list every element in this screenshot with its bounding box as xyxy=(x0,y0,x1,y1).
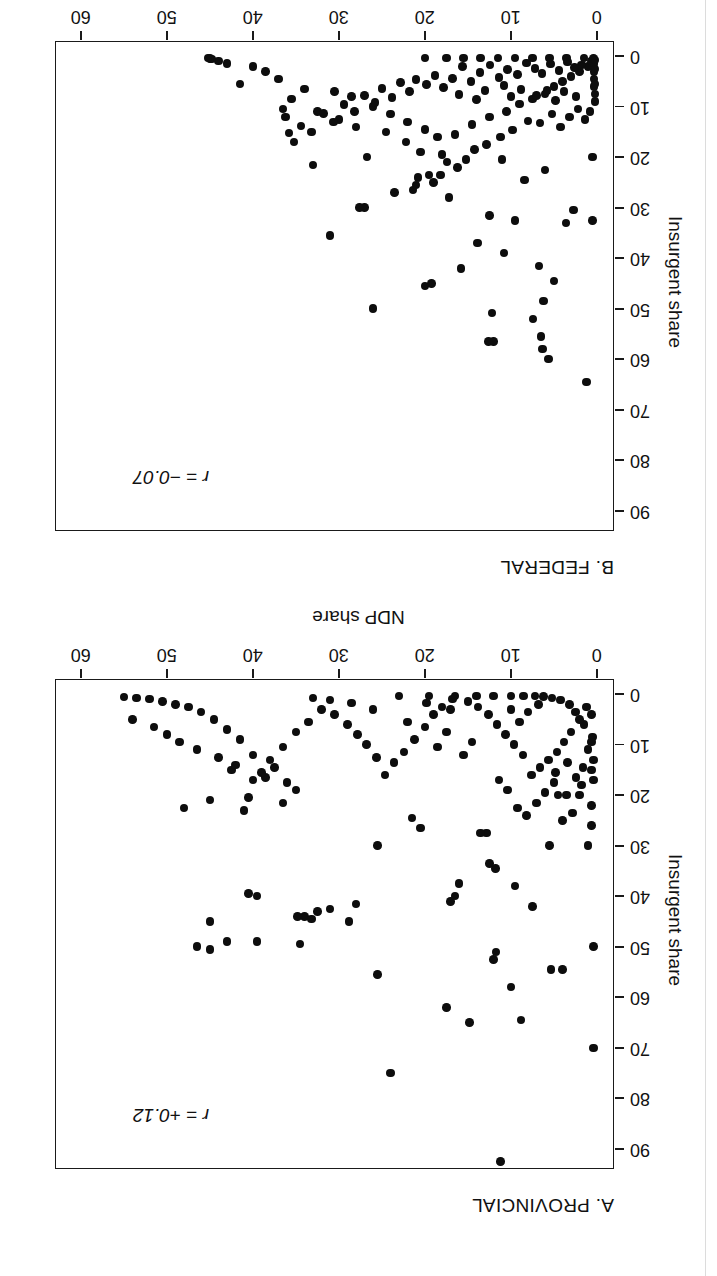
x-tick-label: 0 xyxy=(577,6,617,27)
x-tick-label: 30 xyxy=(319,644,359,665)
scatter-point xyxy=(577,781,586,790)
y-tick-label: 70 xyxy=(630,1038,672,1059)
scatter-point xyxy=(457,264,466,273)
scatter-point xyxy=(453,163,462,172)
scatter-point xyxy=(513,70,522,79)
scatter-point xyxy=(372,753,381,762)
scatter-point xyxy=(545,841,554,850)
scatter-point xyxy=(436,171,445,180)
scatter-point xyxy=(371,98,380,107)
x-tick-mark xyxy=(80,669,82,678)
scatter-point xyxy=(429,178,438,187)
scatter-point xyxy=(442,1003,451,1012)
scatter-point xyxy=(458,62,467,71)
scatter-point xyxy=(279,799,288,808)
scatter-point xyxy=(319,110,328,119)
scatter-point xyxy=(431,71,440,80)
y-tick-label: 70 xyxy=(630,400,672,421)
x-tick-label: 20 xyxy=(405,6,445,27)
scatter-point xyxy=(293,912,302,921)
scatter-point xyxy=(329,118,338,127)
scatter-point xyxy=(340,100,349,109)
scatter-point xyxy=(355,203,364,212)
x-tick-mark xyxy=(166,669,168,678)
scatter-point xyxy=(551,768,560,777)
y-tick-label: 60 xyxy=(630,987,672,1008)
scatter-point xyxy=(587,821,596,830)
scatter-point xyxy=(476,68,485,77)
scatter-point xyxy=(300,85,309,94)
scatter-point xyxy=(500,81,509,90)
scatter-point xyxy=(515,718,524,727)
scatter-point xyxy=(347,92,356,101)
scatter-point xyxy=(485,113,494,122)
scatter-point xyxy=(532,91,541,100)
scatter-point xyxy=(485,211,494,220)
scatter-point xyxy=(507,92,516,101)
scatter-point xyxy=(412,75,421,84)
scatter-point xyxy=(193,942,202,951)
scatter-point xyxy=(538,69,547,78)
scatter-point xyxy=(563,758,572,767)
scatter-point xyxy=(405,87,414,96)
panel-b-y-axis-title: Insurgent share xyxy=(664,216,686,348)
scatter-point xyxy=(353,730,362,739)
x-tick-label: 40 xyxy=(233,6,273,27)
scatter-point xyxy=(517,85,526,94)
y-tick-mark xyxy=(615,358,624,360)
y-tick-mark xyxy=(615,1098,624,1100)
scatter-point xyxy=(350,107,359,116)
scatter-point xyxy=(501,730,510,739)
y-tick-label: 60 xyxy=(630,349,672,370)
scatter-point xyxy=(484,337,493,346)
scatter-point xyxy=(163,730,172,739)
x-tick-mark xyxy=(596,31,598,40)
scatter-point xyxy=(470,145,479,154)
scatter-point xyxy=(421,125,430,134)
x-tick-label: 60 xyxy=(61,6,101,27)
scatter-point xyxy=(158,697,167,706)
scatter-point xyxy=(589,1044,598,1053)
scatter-point xyxy=(558,965,567,974)
y-tick-label: 80 xyxy=(630,1088,672,1109)
scatter-point xyxy=(396,78,405,87)
scatter-point xyxy=(502,107,511,116)
scatter-point xyxy=(244,793,253,802)
x-tick-mark xyxy=(510,31,512,40)
scatter-point xyxy=(503,65,512,74)
scatter-point xyxy=(210,715,219,724)
scatter-point xyxy=(442,54,451,63)
y-tick-mark xyxy=(615,510,624,512)
scatter-point xyxy=(544,756,553,765)
y-tick-label: 20 xyxy=(630,785,672,806)
scatter-point xyxy=(550,778,559,787)
scatter-point xyxy=(206,917,215,926)
y-tick-label: 10 xyxy=(630,735,672,756)
scatter-point xyxy=(532,799,541,808)
scatter-point xyxy=(468,120,477,129)
y-tick-mark xyxy=(615,996,624,998)
scatter-point xyxy=(439,83,448,92)
scatter-point xyxy=(581,115,590,124)
x-tick-mark xyxy=(338,669,340,678)
y-tick-label: 0 xyxy=(630,46,672,67)
scatter-point xyxy=(485,859,494,868)
y-tick-label: 80 xyxy=(630,450,672,471)
y-tick-mark xyxy=(615,409,624,411)
scatter-point xyxy=(496,1157,505,1166)
scatter-point xyxy=(587,801,596,810)
y-tick-mark xyxy=(615,693,624,695)
scatter-point xyxy=(446,705,455,714)
x-tick-label: 0 xyxy=(577,644,617,665)
scatter-point xyxy=(522,59,531,68)
scatter-point xyxy=(511,216,520,225)
scatter-point xyxy=(304,718,313,727)
scatter-point xyxy=(582,378,591,387)
x-tick-mark xyxy=(252,669,254,678)
x-tick-label: 10 xyxy=(491,644,531,665)
scatter-point xyxy=(560,87,569,96)
x-tick-label: 50 xyxy=(147,6,187,27)
scatter-point xyxy=(496,133,505,142)
x-tick-label: 20 xyxy=(405,644,445,665)
scatter-point xyxy=(416,824,425,833)
